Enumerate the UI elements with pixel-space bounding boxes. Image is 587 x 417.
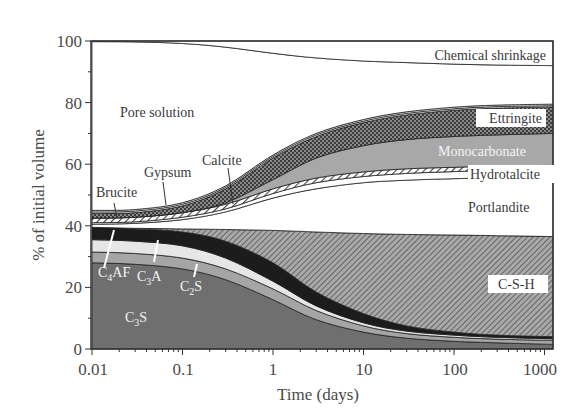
- x-tick-10: 10: [356, 360, 373, 379]
- label-ettringite: Ettringite: [489, 111, 542, 126]
- y-axis-title: % of initial volume: [29, 129, 48, 261]
- x-tick-1000: 1000: [523, 360, 557, 379]
- label-hydrotalcite: Hydrotalcite: [470, 167, 540, 182]
- x-tick-0.01: 0.01: [78, 360, 108, 379]
- label-portlandite: Portlandite: [468, 200, 529, 215]
- label-chemical-shrinkage: Chemical shrinkage: [434, 48, 546, 63]
- label-csh: C-S-H: [498, 277, 535, 292]
- y-tick-20: 20: [65, 278, 82, 297]
- x-tick-1: 1: [269, 360, 278, 379]
- y-tick-60: 60: [65, 155, 82, 174]
- chart: 100 80 60 40 20 0 % of initial volume 0.…: [0, 0, 587, 417]
- x-tick-0.1: 0.1: [172, 360, 193, 379]
- label-calcite: Calcite: [202, 153, 242, 168]
- x-tick-100: 100: [442, 360, 468, 379]
- label-monocarbonate: Monocarbonate: [438, 144, 526, 159]
- stacked-areas: [92, 41, 553, 349]
- y-tick-0: 0: [74, 340, 83, 359]
- x-axis: 0.01 0.1 1 10 100 1000 Time (days): [78, 360, 557, 404]
- x-axis-title: Time (days): [277, 385, 359, 404]
- label-brucite: Brucite: [96, 185, 137, 200]
- y-tick-40: 40: [65, 217, 82, 236]
- y-tick-100: 100: [57, 32, 83, 51]
- label-gypsum: Gypsum: [144, 165, 192, 180]
- y-axis: 100 80 60 40 20 0 % of initial volume: [29, 32, 82, 359]
- y-tick-80: 80: [65, 94, 82, 113]
- label-pore-solution: Pore solution: [120, 105, 194, 120]
